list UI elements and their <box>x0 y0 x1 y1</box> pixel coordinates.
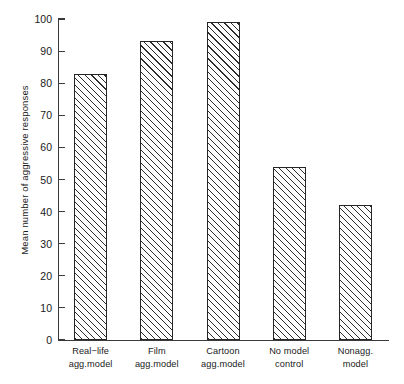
y-axis-tick-label: 30 <box>12 239 52 249</box>
x-axis-line <box>58 340 389 341</box>
category-label-line-1: Film <box>148 346 166 356</box>
bar <box>273 167 306 340</box>
y-axis-tick-label: 100 <box>12 14 52 24</box>
y-axis-tick-label: 60 <box>12 142 52 152</box>
y-axis-tick-label: 0 <box>12 335 52 345</box>
bar-chart-figure: Mean number of aggressive responses 0102… <box>0 0 404 384</box>
bar <box>74 74 107 340</box>
y-axis-tick-label: 50 <box>12 175 52 185</box>
x-axis-category-label: Nonagg.model <box>315 345 395 370</box>
category-label-line-1: Nonagg. <box>338 346 373 356</box>
category-label-line-2: model <box>315 358 395 371</box>
category-label-line-1: Real−life <box>72 346 109 356</box>
bar <box>339 205 372 340</box>
y-axis-tick-label: 80 <box>12 78 52 88</box>
y-axis-tick-label: 40 <box>12 207 52 217</box>
bar <box>207 22 240 340</box>
plot-area <box>58 19 389 340</box>
y-axis-tick-label: 20 <box>12 271 52 281</box>
bar <box>140 41 173 340</box>
y-axis-tick-label: 90 <box>12 46 52 56</box>
y-axis-tick-label: 70 <box>12 110 52 120</box>
category-label-line-1: No model <box>269 346 309 356</box>
y-axis-tick-label: 10 <box>12 303 52 313</box>
category-label-line-1: Cartoon <box>206 346 239 356</box>
